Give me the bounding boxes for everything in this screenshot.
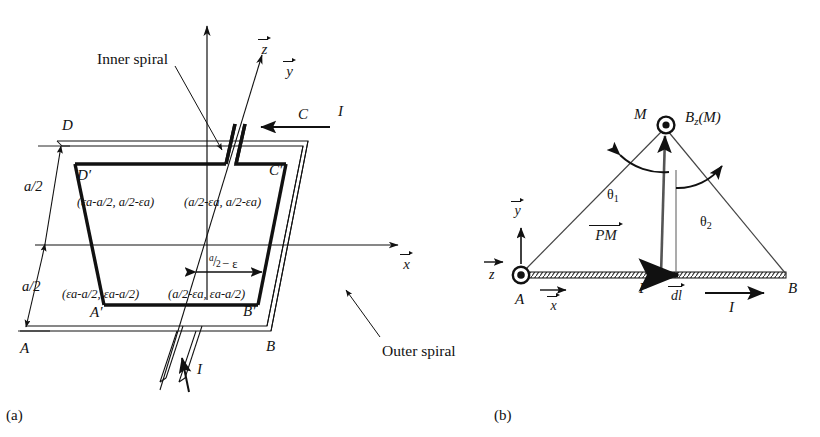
axis-z-label-b: z (489, 268, 494, 282)
axis-y-label-text: y (283, 64, 296, 79)
angle-theta-2-label: θ2 (700, 215, 712, 231)
axis-y-label-b: y (511, 198, 524, 218)
angle-theta-1-label: θ1 (607, 188, 619, 204)
corner-D-prime-label: D′ (77, 168, 91, 183)
corner-B-prime-label: B′ (243, 304, 255, 319)
axis-x-label-b: x (547, 293, 560, 313)
outer-spiral-label: Outer spiral (382, 343, 456, 359)
coord-top-right-label: (a/2-εa, a/2-εa) (184, 196, 261, 209)
theta-2-symbol: θ (700, 214, 707, 229)
field-label-argument: (M) (698, 109, 721, 125)
dimension-label-lower: a/2 (22, 279, 41, 294)
vector-PM-arrow-bar (589, 222, 623, 228)
panel-a-graphics (18, 26, 398, 392)
point-M-label: M (634, 107, 647, 122)
axis-x-label-text-b: x (547, 299, 560, 313)
axis-x-label: x (400, 251, 413, 272)
dimension-tick-lines (18, 146, 70, 331)
panel-a-label: (a) (6, 408, 23, 423)
corner-C-prime-label: C′ (269, 163, 282, 178)
vector-dl-arrow-bar (668, 283, 685, 289)
dimension-label-epsilon: a / 2 − ε (209, 256, 237, 271)
theta-2-subscript: 2 (707, 220, 712, 231)
point-M-marker (658, 117, 675, 134)
corner-B-label: B (266, 339, 275, 354)
theta-1-subscript: 1 (614, 193, 619, 204)
axis-x-label-text: x (400, 257, 413, 272)
arc-theta-1 (620, 155, 669, 172)
figure-root: Inner spiral Outer spiral z y x I I a/2 … (0, 0, 820, 437)
theta-1-symbol: θ (607, 187, 614, 202)
panel-b-label: (b) (494, 408, 512, 423)
corner-D-label: D (62, 118, 73, 133)
corner-C-label: C (298, 107, 308, 122)
axis-y-label: y (283, 58, 296, 79)
axis-y-arrow-bar (283, 58, 296, 64)
inner-spiral-path (75, 124, 286, 305)
epsilon-denominator: 2 (216, 260, 221, 270)
vector-PM-label: PM (589, 222, 623, 243)
wire-AB (521, 272, 786, 278)
dimension-upper-a-half (45, 146, 61, 244)
axis-y-label-text-b: y (511, 204, 524, 218)
inner-spiral-label: Inner spiral (97, 51, 168, 67)
field-label-base: B (685, 109, 694, 125)
outer-spiral-leads (160, 326, 202, 382)
vector-dl-label: dl (668, 283, 685, 303)
segment-PM (661, 136, 665, 275)
axis-y-line (160, 55, 262, 390)
current-label-bottom: I (197, 362, 202, 377)
vector-dl-text: dl (668, 289, 685, 303)
current-label-b: I (729, 300, 734, 315)
coord-bottom-left-label: (εa-a/2, εa-a/2) (62, 288, 139, 301)
axis-x-arrow-bar-b (547, 293, 560, 299)
axis-z-label-text: z (258, 42, 271, 57)
field-label-bz: Bz(M) (685, 110, 721, 127)
epsilon-fraction: a / 2 (209, 256, 222, 270)
epsilon-suffix: − ε (222, 257, 237, 271)
point-A-label: A (515, 292, 524, 307)
panel-b-graphics (484, 117, 786, 293)
inner-spiral-gap-tabs (226, 124, 245, 164)
leader-inner-spiral (175, 66, 222, 150)
axis-x-arrow-bar (400, 251, 413, 257)
point-A-marker (513, 267, 529, 283)
axis-y-arrow-bar-b (511, 198, 524, 204)
point-B-label: B (788, 281, 797, 296)
current-label-top: I (338, 104, 343, 119)
axis-z-arrow-bar (258, 36, 271, 42)
coord-bottom-right-label: (a/2-εa, εa-a/2) (168, 288, 245, 301)
vector-PM-text: PM (589, 228, 623, 243)
segment-AM (521, 129, 664, 274)
leader-outer-spiral (346, 290, 380, 337)
point-P-label: P (639, 281, 648, 296)
segment-MB (667, 130, 786, 274)
dimension-label-upper: a/2 (24, 179, 43, 194)
corner-A-prime-label: A′ (90, 305, 102, 320)
outer-spiral-ribbon (20, 141, 308, 331)
axis-z-label: z (258, 36, 271, 57)
coord-top-left-label: (εa-a/2, a/2-εa) (77, 196, 154, 209)
corner-A-label: A (20, 341, 29, 356)
